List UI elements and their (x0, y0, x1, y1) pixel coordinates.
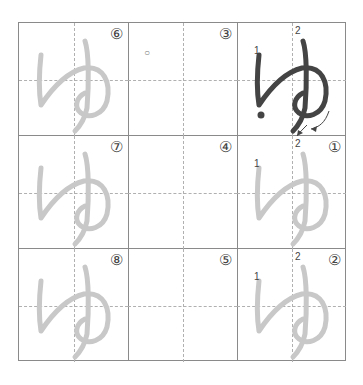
stroke-2 (75, 154, 88, 244)
practice-cell: ④ (128, 136, 237, 249)
cell-number-badge: ③ (218, 27, 232, 41)
stroke-order-number: 1 (254, 45, 260, 56)
stroke-1 (258, 281, 327, 342)
writing-practice-grid: ⑥○③12⑦④12①⑧⑤12② (18, 22, 346, 361)
stroke-1 (258, 168, 327, 229)
stroke-1 (40, 281, 109, 342)
stroke-end-dot (258, 112, 265, 119)
practice-cell: ⑧ (19, 249, 128, 362)
practice-cell: ⑥ (19, 23, 128, 136)
practice-cell: ⑦ (19, 136, 128, 249)
cell-number-badge: ⑥ (109, 27, 123, 41)
center-guide-horizontal (128, 80, 237, 81)
character-glyph (237, 23, 346, 136)
practice-cell: 12① (237, 136, 346, 249)
stroke-1 (258, 55, 327, 116)
cell-number-badge: ① (327, 140, 341, 154)
stroke-order-number: 1 (254, 158, 260, 169)
practice-cell: ○③ (128, 23, 237, 136)
arrowhead-icon (311, 126, 317, 132)
practice-cell: 12 (237, 23, 346, 136)
dakuten-circle-mark: ○ (144, 47, 150, 58)
center-guide-horizontal (128, 306, 237, 307)
stroke-2 (293, 267, 306, 357)
cell-number-badge: ⑤ (218, 253, 232, 267)
stroke-order-number: 2 (295, 138, 301, 149)
stroke-2 (75, 267, 88, 357)
stroke-2 (293, 41, 306, 131)
stroke-order-number: 2 (295, 251, 301, 262)
cell-number-badge: ⑧ (109, 253, 123, 267)
stroke-1 (40, 168, 109, 229)
practice-cell: ⑤ (128, 249, 237, 362)
stroke-2 (75, 41, 88, 131)
cell-number-badge: ② (327, 253, 341, 267)
stroke-order-number: 2 (295, 25, 301, 36)
practice-cell: 12② (237, 249, 346, 362)
cell-number-badge: ④ (218, 140, 232, 154)
stroke-1 (40, 55, 109, 116)
stroke-2 (293, 154, 306, 244)
cell-number-badge: ⑦ (109, 140, 123, 154)
stroke-order-number: 1 (254, 271, 260, 282)
center-guide-horizontal (128, 193, 237, 194)
